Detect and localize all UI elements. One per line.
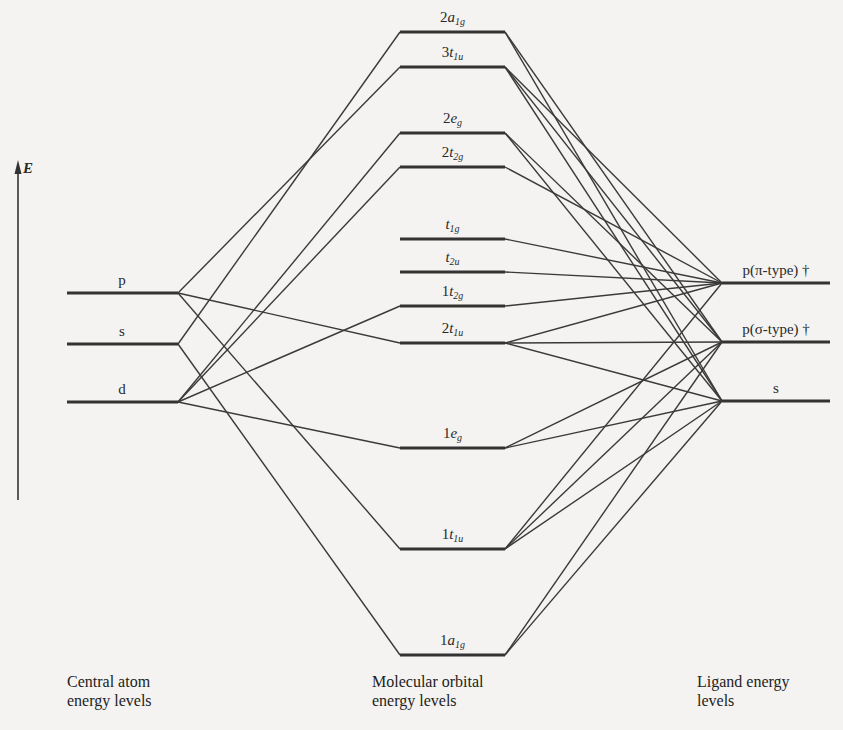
mo-label-prefix: 2 xyxy=(442,320,450,336)
mo-label-prefix: 2 xyxy=(443,110,451,126)
caption-mo-line2: energy levels xyxy=(372,691,484,710)
connector-2eg-psigma xyxy=(505,133,722,342)
mo-label-1t1u: 1t1u xyxy=(442,527,464,544)
mo-label-prefix: 2 xyxy=(442,144,450,160)
mo-label-2a1g: 2a1g xyxy=(440,10,465,27)
mo-label-subscript: 1g xyxy=(450,223,460,234)
mo-label-symbol: a xyxy=(448,632,456,648)
mo-diagram xyxy=(0,0,843,730)
caption-central-atom: Central atom energy levels xyxy=(67,672,152,710)
caption-mo-line1: Molecular orbital xyxy=(372,672,484,691)
mo-label-1eg: 1eg xyxy=(443,426,462,443)
mo-label-subscript: 1u xyxy=(453,327,463,338)
caption-ligand-line1: Ligand energy xyxy=(697,672,790,691)
arrow-up-icon xyxy=(15,160,22,174)
caption-ligand-line2: levels xyxy=(697,691,790,710)
ligand-level-label-s: s xyxy=(773,381,779,396)
mo-label-2eg: 2eg xyxy=(443,111,462,128)
connector-1t1u-ppi xyxy=(505,283,722,549)
mo-label-t1g: t1g xyxy=(445,217,459,234)
connector-1t1u-psigma xyxy=(505,342,722,549)
caption-central-atom-line2: energy levels xyxy=(67,691,152,710)
connector-d-1eg xyxy=(178,402,400,448)
mo-label-prefix: 3 xyxy=(442,44,450,60)
caption-molecular-orbital: Molecular orbital energy levels xyxy=(372,672,484,710)
mo-label-prefix: 1 xyxy=(442,526,450,542)
connector-3t1u-s xyxy=(505,67,722,401)
mo-label-prefix: 2 xyxy=(440,9,448,25)
connector-p-3t1u xyxy=(178,67,400,293)
connector-2a1g-s xyxy=(505,32,722,401)
mo-label-subscript: 1g xyxy=(455,16,465,27)
connector-2eg-s xyxy=(505,133,722,401)
mo-label-prefix: 1 xyxy=(440,632,448,648)
mo-label-3t1u: 3t1u xyxy=(442,45,464,62)
connector-d-2t2g xyxy=(178,167,400,402)
mo-label-1a1g: 1a1g xyxy=(440,633,465,650)
mo-label-2t2g: 2t2g xyxy=(442,145,464,162)
mo-label-subscript: g xyxy=(457,432,462,443)
connector-2t1u-ppi xyxy=(505,283,722,343)
caption-central-atom-line1: Central atom xyxy=(67,672,152,691)
mo-label-symbol: a xyxy=(448,9,456,25)
mo-label-subscript: 2g xyxy=(453,290,463,301)
connector-2t1u-psigma xyxy=(505,342,722,343)
connector-2a1g-psigma xyxy=(505,32,722,342)
mo-label-subscript: 2g xyxy=(453,151,463,162)
mo-label-subscript: 1g xyxy=(455,639,465,650)
mo-label-prefix: 1 xyxy=(442,283,450,299)
connector-3t1u-ppi xyxy=(505,67,722,283)
connector-t2u-ppi xyxy=(505,272,722,283)
mo-label-prefix: 1 xyxy=(443,425,451,441)
mo-label-subscript: 1u xyxy=(453,533,463,544)
caption-ligand: Ligand energy levels xyxy=(697,672,790,710)
connector-s-1a1g xyxy=(178,344,400,655)
connector-1a1g-s xyxy=(505,401,722,655)
connector-3t1u-psigma xyxy=(505,67,722,342)
central-level-label-s: s xyxy=(119,324,125,339)
connector-p-2t1u xyxy=(178,293,400,343)
ligand-level-label-psigma: p(σ-type) † xyxy=(742,322,810,337)
mo-label-1t2g: 1t2g xyxy=(442,284,464,301)
mo-label-subscript: 2u xyxy=(450,256,460,267)
mo-label-subscript: 1u xyxy=(453,51,463,62)
central-level-label-d: d xyxy=(118,382,126,397)
ligand-level-label-ppi: p(π-type) † xyxy=(742,263,809,278)
mo-label-t2u: t2u xyxy=(445,250,459,267)
connector-d-2eg xyxy=(178,133,400,402)
energy-axis xyxy=(15,160,22,500)
energy-axis-label: E xyxy=(23,160,33,177)
connector-1a1g-psigma xyxy=(505,342,722,655)
connector-1eg-s xyxy=(505,401,722,448)
connector-d-1t2g xyxy=(178,306,400,402)
connector-1eg-psigma xyxy=(505,342,722,448)
connector-1t1u-s xyxy=(505,401,722,549)
central-level-label-p: p xyxy=(118,273,126,288)
connector-t1g-ppi xyxy=(505,239,722,283)
connector-2t2g-ppi xyxy=(505,167,722,283)
mo-label-subscript: g xyxy=(457,117,462,128)
connector-p-1t1u xyxy=(178,293,400,549)
connector-s-2a1g xyxy=(178,32,400,344)
mo-label-2t1u: 2t1u xyxy=(442,321,464,338)
